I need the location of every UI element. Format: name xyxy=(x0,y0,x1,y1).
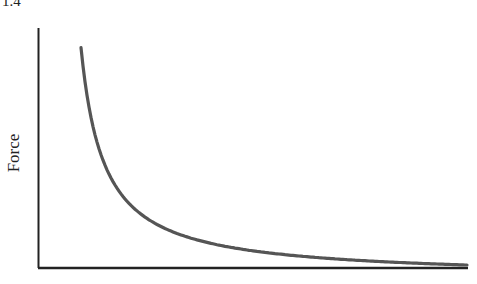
chart-plot xyxy=(0,0,477,284)
force-curve-line xyxy=(81,48,467,265)
